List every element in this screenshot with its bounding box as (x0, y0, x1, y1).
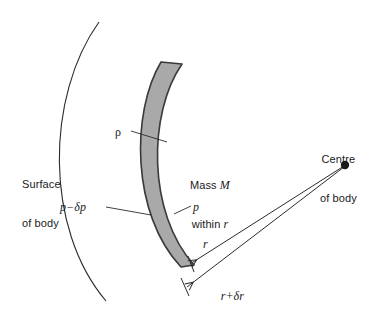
label-surface-of-body: Surface of body (22, 152, 61, 256)
label-centre-of-body-line2: of body (320, 192, 357, 205)
label-radius-outer-delta: +δr (225, 289, 244, 303)
label-mass-word: Mass (190, 179, 217, 191)
diagram-canvas: Surface of body ρ p−δp p Mass M within r… (0, 0, 379, 322)
label-mass-symbol: M (220, 178, 230, 192)
label-mass-within-r: Mass M within r (190, 153, 230, 257)
label-surface-of-body-line1: Surface (22, 178, 61, 191)
label-radius-inner: r (203, 238, 208, 251)
label-density: ρ (115, 126, 121, 139)
label-within-word: within (192, 218, 221, 230)
label-surface-of-body-line2: of body (22, 217, 61, 230)
label-pressure-outer: p−δp (60, 201, 86, 214)
surface-of-body-arc (59, 22, 106, 301)
leader-line-pressure-outer (106, 207, 151, 215)
shell-band (141, 62, 194, 267)
label-mass-line2: within r (190, 218, 230, 231)
label-mass-line1: Mass M (190, 179, 230, 192)
leader-line-pressure-inner (174, 206, 191, 214)
label-centre-of-body-line1: Centre (320, 153, 357, 166)
label-within-symbol: r (224, 217, 229, 231)
label-centre-of-body: Centre of body (320, 127, 357, 231)
label-radius-outer: r+δr (208, 277, 244, 316)
